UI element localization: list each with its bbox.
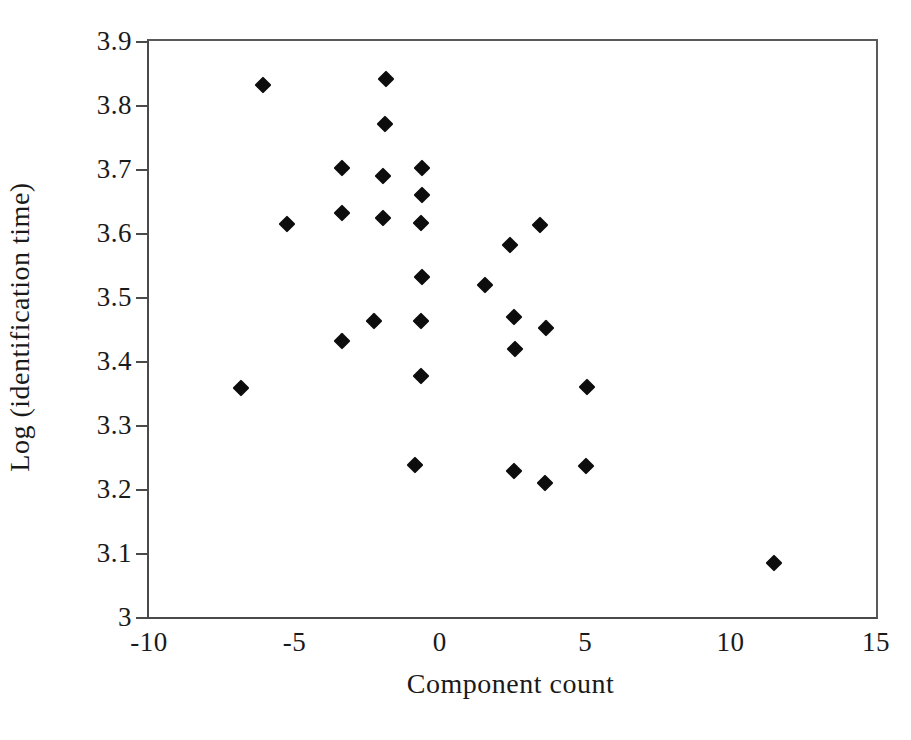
data-point-marker — [505, 463, 522, 480]
data-point-marker — [366, 313, 383, 330]
data-point-marker — [376, 115, 393, 132]
data-point-marker — [333, 159, 350, 176]
data-point-marker — [502, 237, 519, 254]
scatter-plot-figure: 33.13.23.33.43.53.63.73.83.9-10-5051015 … — [0, 0, 911, 740]
y-axis-tick — [136, 425, 149, 427]
y-axis-tick — [136, 105, 149, 107]
data-point-marker — [413, 187, 430, 204]
data-point-marker — [532, 216, 549, 233]
x-axis-tick-label: -5 — [283, 629, 307, 656]
y-axis-tick — [136, 617, 149, 619]
data-point-marker — [578, 378, 595, 395]
y-axis-tick — [136, 297, 149, 299]
data-point-marker — [412, 313, 429, 330]
y-axis-tick-label: 3.3 — [97, 412, 132, 439]
data-point-marker — [254, 77, 271, 94]
x-axis-tick-label: 5 — [578, 629, 592, 656]
data-point-marker — [333, 204, 350, 221]
x-axis-title: Component count — [147, 668, 874, 700]
y-axis-tick-label: 3.5 — [97, 284, 132, 311]
data-point-marker — [505, 309, 522, 326]
y-axis-tick-label: 3.2 — [97, 476, 132, 503]
x-axis-tick-label: 0 — [433, 629, 447, 656]
x-axis-tick-label: -10 — [130, 629, 168, 656]
y-axis-tick — [136, 361, 149, 363]
data-point-marker — [537, 320, 554, 337]
x-axis-tick-label: 15 — [862, 629, 890, 656]
data-point-marker — [765, 554, 782, 571]
y-axis-tick — [136, 489, 149, 491]
data-point-marker — [375, 209, 392, 226]
x-axis-tick-label: 10 — [717, 629, 745, 656]
data-point-marker — [506, 341, 523, 358]
data-point-marker — [578, 457, 595, 474]
y-axis-tick-label: 3.9 — [97, 28, 132, 55]
y-axis-tick-label: 3.1 — [97, 540, 132, 567]
data-point-marker — [412, 368, 429, 385]
data-point-marker — [476, 277, 493, 294]
data-point-marker — [378, 71, 395, 88]
y-axis-tick-label: 3.6 — [97, 220, 132, 247]
y-axis-title: Log (identification time) — [0, 39, 40, 615]
data-point-marker — [333, 332, 350, 349]
data-point-marker — [279, 216, 296, 233]
y-axis-tick — [136, 233, 149, 235]
plot-area: 33.13.23.33.43.53.63.73.83.9-10-5051015 — [147, 39, 878, 619]
data-point-marker — [413, 214, 430, 231]
data-point-marker — [232, 379, 249, 396]
y-axis-tick-label: 3.8 — [97, 92, 132, 119]
y-axis-tick-label: 3.7 — [97, 156, 132, 183]
y-axis-tick — [136, 169, 149, 171]
data-point-marker — [413, 268, 430, 285]
y-axis-tick-label: 3.4 — [97, 348, 132, 375]
data-point-marker — [413, 160, 430, 177]
y-axis-tick — [136, 41, 149, 43]
data-point-marker — [375, 168, 392, 185]
data-point-marker — [536, 474, 553, 491]
data-point-marker — [406, 457, 423, 474]
y-axis-tick — [136, 553, 149, 555]
